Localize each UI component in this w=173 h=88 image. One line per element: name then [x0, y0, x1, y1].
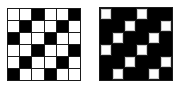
grid-cell-white [8, 57, 19, 68]
grid-cell-white [149, 69, 159, 79]
grid-cell-black [100, 68, 112, 80]
grid-cell-black [148, 44, 160, 56]
grid-cell-black [8, 69, 19, 80]
grid-cell-white [45, 21, 56, 32]
grid-cell-white [57, 69, 68, 80]
grid-cell-white [32, 57, 43, 68]
grid-cell-white [161, 57, 171, 67]
grid-cell-white [8, 45, 19, 56]
grid-cell-white [32, 69, 43, 80]
grid-cell-white [69, 33, 80, 44]
grid-cell-white [137, 45, 147, 55]
grid-cell-black [148, 56, 160, 68]
grid-cell-white [57, 33, 68, 44]
grid-cell-white [69, 69, 80, 80]
grid-cell-black [8, 33, 19, 44]
grid-cell-white [125, 57, 135, 67]
grid-cell-white [20, 9, 31, 20]
grid-cell-white [113, 33, 123, 43]
grid-cell-black [100, 56, 112, 68]
grid-cell-white [69, 21, 80, 32]
grid-cell-white [20, 69, 31, 80]
grid-cell-black [136, 68, 148, 80]
grid-cell-black [20, 21, 31, 32]
grid-cell-black [136, 20, 148, 32]
weave-grid-light [7, 8, 81, 81]
grid-cell-black [112, 56, 124, 68]
grid-cell-black [112, 8, 124, 20]
grid-cell-white [161, 21, 171, 31]
grid-cell-black [124, 8, 136, 20]
grid-cell-black [100, 32, 112, 44]
grid-cell-white [32, 21, 43, 32]
grid-cell-white [101, 45, 111, 55]
grid-cell-black [57, 21, 68, 32]
grid-cell-black [160, 44, 172, 56]
grid-cell-white [149, 33, 159, 43]
grid-cell-white [32, 33, 43, 44]
grid-cell-white [137, 9, 147, 19]
grid-cell-black [100, 20, 112, 32]
grid-cell-black [136, 56, 148, 68]
grid-cell-black [112, 44, 124, 56]
grid-cell-black [148, 8, 160, 20]
grid-cell-black [160, 32, 172, 44]
grid-cell-black [32, 9, 43, 20]
grid-cell-black [45, 33, 56, 44]
weave-grid-dark [99, 7, 173, 81]
grid-cell-black [124, 32, 136, 44]
grid-cell-white [57, 9, 68, 20]
grid-cell-black [112, 20, 124, 32]
grid-cell-white [45, 9, 56, 20]
grid-cell-black [148, 20, 160, 32]
grid-cell-white [45, 57, 56, 68]
grid-cell-white [20, 45, 31, 56]
grid-cell-white [45, 45, 56, 56]
grid-cell-black [160, 68, 172, 80]
grid-cell-white [113, 69, 123, 79]
grid-cell-black [69, 45, 80, 56]
grid-cell-black [124, 44, 136, 56]
grid-cell-white [8, 9, 19, 20]
grid-cell-black [124, 68, 136, 80]
grid-cell-white [101, 9, 111, 19]
grid-cell-white [8, 21, 19, 32]
grid-cell-black [136, 32, 148, 44]
grid-cell-black [57, 57, 68, 68]
grid-cell-white [20, 33, 31, 44]
grid-cell-white [69, 57, 80, 68]
grid-cell-black [45, 69, 56, 80]
grid-cell-black [20, 57, 31, 68]
grid-cell-black [160, 8, 172, 20]
grid-cell-white [57, 45, 68, 56]
grid-cell-black [32, 45, 43, 56]
grid-cell-white [125, 21, 135, 31]
grid-cell-black [69, 9, 80, 20]
